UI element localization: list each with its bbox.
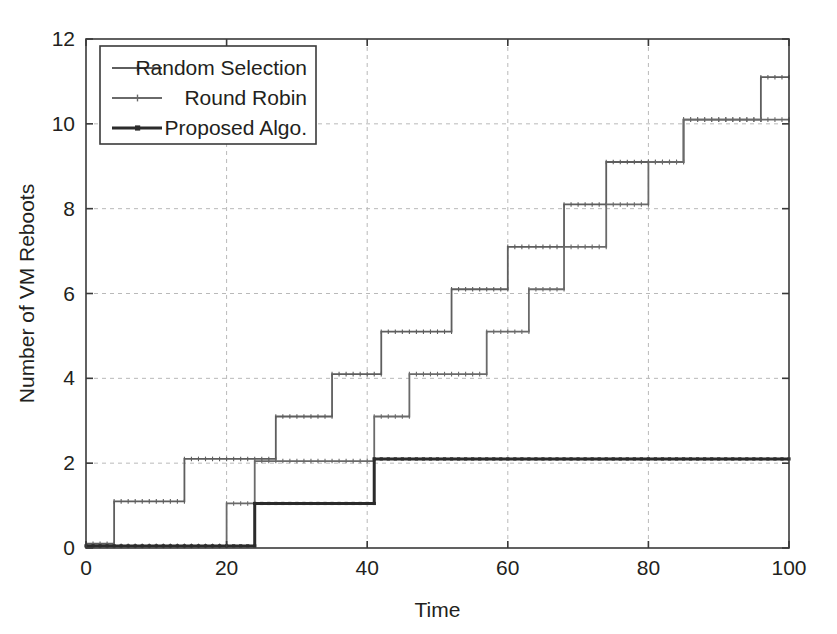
data-point-marker xyxy=(253,544,256,547)
data-point-marker xyxy=(745,457,748,460)
x-tick-label: 40 xyxy=(356,556,379,579)
data-point-marker xyxy=(513,457,516,460)
data-point-marker xyxy=(759,457,762,460)
y-tick-label: 2 xyxy=(63,451,75,474)
data-point-marker xyxy=(288,502,291,505)
data-point-marker xyxy=(584,457,587,460)
series-group xyxy=(84,75,790,548)
data-point-marker xyxy=(605,457,608,460)
data-point-marker xyxy=(443,457,446,460)
data-point-marker xyxy=(127,544,130,547)
data-point-marker xyxy=(436,457,439,460)
data-point-marker xyxy=(204,544,207,547)
y-tick-label: 10 xyxy=(52,112,75,135)
data-point-marker xyxy=(190,544,193,547)
data-point-marker xyxy=(373,502,376,505)
data-point-marker xyxy=(302,502,305,505)
series-line-3 xyxy=(86,459,789,546)
data-point-marker xyxy=(387,457,390,460)
chart-legend: Random SelectionRound RobinProposed Algo… xyxy=(100,46,316,144)
chart-figure: 024681012020406080100TimeNumber of VM Re… xyxy=(0,0,837,634)
data-point-marker xyxy=(464,457,467,460)
legend-label: Random Selection xyxy=(135,56,307,79)
data-point-marker xyxy=(450,457,453,460)
x-tick-label: 60 xyxy=(496,556,519,579)
data-point-marker xyxy=(401,457,404,460)
data-point-marker xyxy=(661,457,664,460)
legend-label: Proposed Algo. xyxy=(165,116,307,139)
data-point-marker xyxy=(246,544,249,547)
data-point-marker xyxy=(766,457,769,460)
x-tick-label: 20 xyxy=(215,556,238,579)
data-point-marker xyxy=(710,457,713,460)
data-point-marker xyxy=(548,457,551,460)
data-point-marker xyxy=(267,502,270,505)
data-point-marker xyxy=(738,457,741,460)
y-tick-label: 4 xyxy=(63,366,75,389)
data-point-marker xyxy=(696,457,699,460)
data-point-marker xyxy=(675,457,678,460)
y-tick-label: 6 xyxy=(63,282,75,305)
data-point-marker xyxy=(98,544,101,547)
x-tick-label: 0 xyxy=(80,556,92,579)
data-point-marker xyxy=(647,457,650,460)
data-point-marker xyxy=(394,457,397,460)
y-axis-title: Number of VM Reboots xyxy=(15,184,38,403)
data-point-marker xyxy=(309,502,312,505)
data-point-marker xyxy=(717,457,720,460)
data-point-marker xyxy=(281,502,284,505)
legend-entry-1[interactable]: Random Selection xyxy=(112,56,307,79)
data-point-marker xyxy=(471,457,474,460)
data-point-marker xyxy=(345,502,348,505)
data-point-marker xyxy=(169,544,172,547)
data-point-marker xyxy=(457,457,460,460)
data-point-marker xyxy=(380,457,383,460)
data-point-marker xyxy=(316,502,319,505)
data-point-marker xyxy=(682,457,685,460)
data-point-marker xyxy=(577,457,580,460)
data-point-marker xyxy=(612,457,615,460)
data-point-marker xyxy=(429,457,432,460)
data-point-marker xyxy=(162,544,165,547)
data-point-marker xyxy=(366,502,369,505)
data-point-marker xyxy=(295,502,298,505)
data-point-marker xyxy=(485,457,488,460)
data-point-marker xyxy=(274,502,277,505)
data-point-marker xyxy=(598,457,601,460)
data-point-marker xyxy=(359,502,362,505)
data-point-marker xyxy=(591,457,594,460)
x-tick-label: 80 xyxy=(637,556,660,579)
data-point-marker xyxy=(176,544,179,547)
data-point-marker xyxy=(626,457,629,460)
data-point-marker xyxy=(155,544,158,547)
data-point-marker xyxy=(780,457,783,460)
data-point-marker xyxy=(534,457,537,460)
data-point-marker xyxy=(562,457,565,460)
legend-marker xyxy=(135,125,140,130)
legend-label: Round Robin xyxy=(184,86,307,109)
data-point-marker xyxy=(520,457,523,460)
data-point-marker xyxy=(141,544,144,547)
data-point-marker xyxy=(668,457,671,460)
data-point-marker xyxy=(555,457,558,460)
data-point-marker xyxy=(91,544,94,547)
y-tick-label: 8 xyxy=(63,197,75,220)
data-point-marker xyxy=(633,457,636,460)
data-point-marker xyxy=(183,544,186,547)
data-point-marker xyxy=(415,457,418,460)
data-point-marker xyxy=(724,457,727,460)
data-point-marker xyxy=(773,457,776,460)
data-point-marker xyxy=(422,457,425,460)
data-point-marker xyxy=(752,457,755,460)
vm-reboots-step-chart: 024681012020406080100TimeNumber of VM Re… xyxy=(0,0,837,634)
data-point-marker xyxy=(619,457,622,460)
data-point-marker xyxy=(373,457,376,460)
data-point-marker xyxy=(323,502,326,505)
data-point-marker xyxy=(654,457,657,460)
data-point-marker xyxy=(148,544,151,547)
data-point-marker xyxy=(113,544,116,547)
data-point-marker xyxy=(105,544,108,547)
y-tick-label: 0 xyxy=(63,536,75,559)
data-point-marker xyxy=(569,457,572,460)
data-point-marker xyxy=(253,502,256,505)
